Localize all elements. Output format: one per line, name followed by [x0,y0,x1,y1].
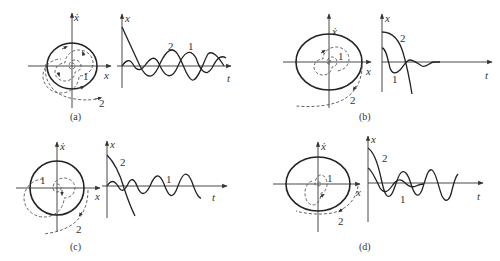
limit-cycle-figure: ẋ x 1 2 x t 2 1 (a) [0,0,500,261]
xdot-axis-label: ẋ [320,140,326,152]
direction-arrow [58,72,59,75]
curve-label-2: 2 [168,40,174,52]
panel-a: ẋ x 1 2 x t 2 1 (a) [28,11,231,123]
trajectory-label-1: 1 [83,70,89,82]
response-curve-1 [122,52,226,75]
direction-arrow [320,195,323,197]
curve-label-1: 1 [188,40,194,52]
panel-d: ẋ x 1 2 x t 2 1 (d) [273,133,483,253]
trajectory-label-2: 2 [350,94,356,106]
t-axis-label: t [485,69,489,81]
direction-arrow [62,47,66,49]
curve-label-1: 1 [166,173,172,185]
x-axis-label: x [94,190,100,202]
caption-d: (d) [359,241,371,253]
time-plot-c: x t 2 1 [102,138,227,218]
x-axis-label: x [103,69,109,81]
time-plot-d: x t 2 1 [368,133,483,222]
phase-plot-c: ẋ x 1 2 [16,140,100,235]
curve-label-2: 2 [120,156,126,168]
xdot-axis-label: ẋ [59,140,65,152]
curve-label-1: 1 [392,73,398,85]
x-axis-label: x [384,12,390,24]
curve-label-2: 2 [400,32,406,44]
direction-arrow [321,51,324,53]
trajectory-label-2: 2 [76,223,82,235]
trajectory-label-1: 1 [327,172,333,184]
trajectory-1 [314,47,349,75]
trajectory-label-1: 1 [338,50,344,62]
response-curve-1 [368,168,424,192]
phase-plot-d: ẋ x 1 2 [273,140,361,232]
caption-a: (a) [70,111,81,123]
xdot-axis-label: ẋ [73,11,79,23]
time-plot-a: x t 2 1 [117,12,231,88]
trajectory-label-2: 2 [338,215,344,227]
caption-b: (b) [359,111,371,123]
x-axis-label: x [124,12,130,24]
panel-c: ẋ x 1 2 x t 2 1 (c) [16,138,227,253]
time-plot-b: x t 2 1 [382,12,492,94]
trajectory-1 [305,175,327,205]
x-axis-label: x [370,133,376,145]
trajectory-label-1: 1 [40,174,46,186]
direction-arrow [83,53,84,56]
response-curve-1 [382,48,440,73]
x-axis-label: x [365,65,371,77]
t-axis-label: t [212,191,216,203]
curve-label-2: 2 [382,152,388,164]
panel-b: ẋ x 1 2 x t 2 1 (b) [283,12,492,123]
trajectory-label-2: 2 [99,97,105,109]
curve-label-1: 1 [400,193,406,205]
phase-plot-b: ẋ x 1 2 [283,14,371,108]
x-axis-label: x [109,138,115,150]
caption-c: (c) [70,241,81,253]
t-axis-label: t [477,190,481,202]
t-axis-label: t [227,72,231,84]
phase-plot-a: ẋ x 1 2 [28,11,111,109]
